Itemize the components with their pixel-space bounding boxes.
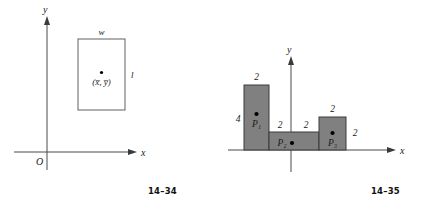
x-axis-label-right: x — [399, 145, 405, 156]
x-axis-arrowhead-right — [387, 147, 396, 153]
bar-p1-label: P₁ — [251, 119, 261, 129]
centroid-coordinate-label: (x̅, y̅) — [92, 77, 110, 87]
x-axis-group: x — [14, 147, 146, 158]
bar-p1-top-dimension: 2 — [254, 72, 259, 82]
y-axis-group-right: y — [286, 44, 294, 172]
figure-pair-container: y x O w l (x̅, y̅) y — [0, 0, 432, 205]
figure-14-35: y x 2 4 P₁ 2 2 P₂ 2 2 P₃ — [216, 0, 432, 205]
bar-p3-centroid-dot — [330, 131, 334, 135]
bar-p3-label: P₃ — [327, 138, 337, 148]
figure-14-34: y x O w l (x̅, y̅) — [0, 0, 216, 205]
bar-p2-label: P₂ — [276, 138, 287, 148]
bar-p2-centroid-dot — [290, 141, 294, 145]
rectangle-shape — [78, 39, 125, 110]
bar-p3-top-dimension: 2 — [330, 104, 335, 114]
origin-label: O — [36, 156, 43, 167]
figure-caption-left: 14–34 — [148, 186, 177, 196]
bar-p2-top-dimension-right: 2 — [304, 120, 309, 130]
bar-p1 — [244, 85, 269, 150]
y-axis-group: y — [42, 4, 50, 170]
rectangle-length-label: l — [131, 70, 134, 80]
bar-p1-centroid-dot — [254, 112, 258, 116]
rectangle-width-label: w — [98, 27, 104, 37]
bar-p2-top-dimension-left: 2 — [278, 120, 283, 130]
x-axis-label: x — [140, 147, 146, 158]
bar-p1-side-dimension: 4 — [236, 114, 241, 124]
x-axis-arrowhead — [128, 149, 137, 155]
y-axis-arrowhead-right — [288, 56, 294, 65]
centroid-dot — [100, 71, 103, 74]
figure-caption-right: 14–35 — [371, 186, 400, 196]
y-axis-label: y — [42, 4, 48, 15]
y-axis-arrowhead — [44, 16, 50, 25]
bar-p3-side-dimension: 2 — [353, 128, 358, 138]
y-axis-label-right: y — [286, 44, 292, 55]
